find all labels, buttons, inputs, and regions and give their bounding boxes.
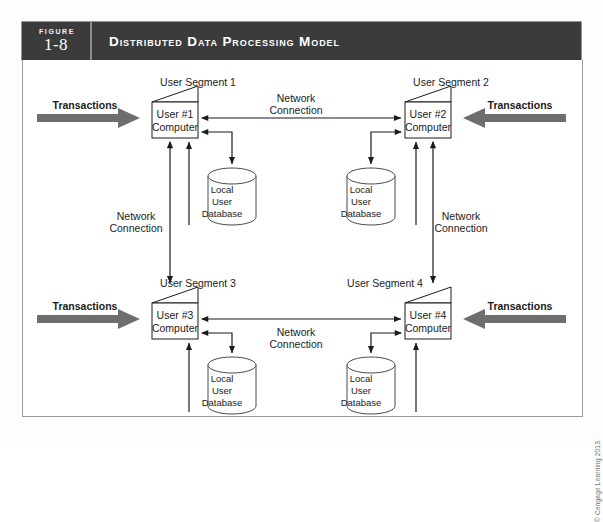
label-network-bottom-line1: Network [256,326,336,339]
label-network-left-line1: Network [96,210,176,223]
label-computer-4-line2: Computer [401,322,455,335]
label-database-1-line3: Database [190,208,254,220]
label-database-3-line1: Local [190,373,254,385]
label-database-4-line2: User [329,385,393,397]
label-database-4-line3: Database [329,397,393,409]
label-user-segment-4: User Segment 4 [330,277,440,290]
label-transactions-2: Transactions [473,99,567,112]
label-database-2-line3: Database [329,208,393,220]
label-computer-1-line2: Computer [148,121,202,134]
label-database-2-line1: Local [329,184,393,196]
label-database-3-line2: User [190,385,254,397]
figure-number-box: FIGURE 1-8 [22,22,92,60]
label-user-segment-1: User Segment 1 [143,76,253,89]
label-database-4-line1: Local [329,373,393,385]
label-user-segment-3: User Segment 3 [143,277,253,290]
label-network-left-line2: Connection [96,222,176,235]
label-computer-4-line1: User #4 [405,309,451,322]
label-computer-3-line2: Computer [148,322,202,335]
label-computer-3-line1: User #3 [152,309,198,322]
label-database-1-line2: User [190,196,254,208]
label-transactions-3: Transactions [38,300,132,313]
figure-header: FIGURE 1-8 Distributed Data Processing M… [22,22,581,60]
copyright-notice: © Cengage Learning 2013. [594,439,601,522]
label-user-segment-2: User Segment 2 [396,76,506,89]
label-network-right-line2: Connection [421,222,501,235]
label-computer-2-line1: User #2 [405,108,451,121]
label-computer-1-line1: User #1 [152,108,198,121]
figure-number: 1-8 [44,36,68,54]
label-database-3-line3: Database [190,397,254,409]
label-database-1-line1: Local [190,184,254,196]
label-database-2-line2: User [329,196,393,208]
label-transactions-4: Transactions [473,300,567,313]
label-transactions-1: Transactions [38,99,132,112]
label-computer-2-line2: Computer [401,121,455,134]
figure-title: Distributed Data Processing Model [92,22,581,60]
label-network-bottom-line2: Connection [256,338,336,351]
label-network-right-line1: Network [421,210,501,223]
label-network-top-line1: Network [256,92,336,105]
label-network-top-line2: Connection [256,104,336,117]
